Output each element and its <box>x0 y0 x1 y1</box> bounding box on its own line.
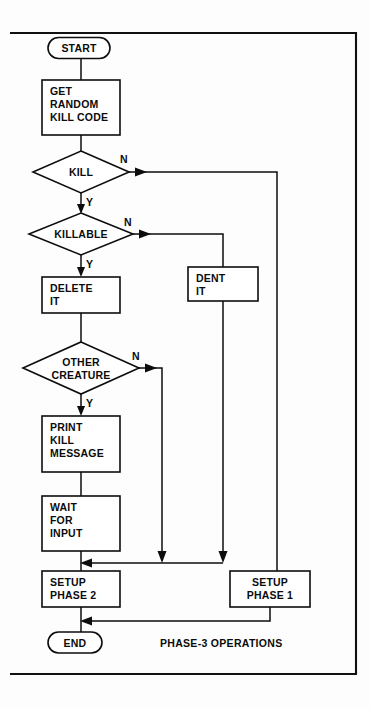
node-end-label: END <box>64 637 87 649</box>
node-kill-label: KILL <box>69 166 94 178</box>
node-delete-it[interactable]: DELETE IT <box>42 277 120 313</box>
node-get-code-line-3: KILL CODE <box>50 111 108 123</box>
edge-killable-yes-to-delete-it <box>77 255 85 277</box>
node-delete-it-line-2: IT <box>50 295 60 307</box>
node-dent-it-line-2: IT <box>196 285 206 297</box>
edge-wait-to-setup-phase-2 <box>80 551 223 571</box>
node-start[interactable]: START <box>48 38 110 59</box>
node-setup-phase-1-line-2: PHASE 1 <box>247 589 293 601</box>
caption-phase-3-operations: PHASE-3 OPERATIONS <box>160 637 282 649</box>
node-print-line-2: KILL <box>50 434 75 446</box>
node-delete-it-line-1: DELETE <box>50 282 93 294</box>
node-killable-label: KILLABLE <box>54 228 108 240</box>
node-setup-phase-2[interactable]: SETUP PHASE 2 <box>42 571 120 607</box>
node-print-line-3: MESSAGE <box>50 447 104 459</box>
branch-label-other-creature-y: Y <box>86 397 93 409</box>
node-setup-phase-2-line-1: SETUP <box>50 576 86 588</box>
node-get-code-line-2: RANDOM <box>50 98 98 110</box>
edge-other-creature-yes-to-print <box>77 394 85 416</box>
branch-label-killable-y: Y <box>86 258 93 270</box>
node-get-random-kill-code[interactable]: GET RANDOM KILL CODE <box>42 80 120 135</box>
node-other-creature-decision[interactable]: OTHER CREATURE <box>23 342 139 394</box>
node-end[interactable]: END <box>48 632 102 653</box>
node-wait-for-input[interactable]: WAIT FOR INPUT <box>42 496 120 551</box>
edge-dent-it-to-merge <box>219 301 228 563</box>
branch-label-killable-n: N <box>124 216 132 228</box>
flowchart-canvas: START GET RANDOM KILL CODE KILL KILLABLE <box>0 0 370 708</box>
node-dent-it[interactable]: DENT IT <box>188 267 258 301</box>
edge-killable-no-to-dent-it <box>133 230 223 268</box>
node-dent-it-line-1: DENT <box>196 272 226 284</box>
edge-setup-phase-1-to-end <box>80 607 270 626</box>
branch-label-other-creature-n: N <box>132 350 140 362</box>
node-other-creature-line-2: CREATURE <box>51 369 110 381</box>
node-start-label: START <box>61 42 97 54</box>
node-print-line-1: PRINT <box>50 421 83 433</box>
node-wait-line-3: INPUT <box>50 527 83 539</box>
node-layer: START GET RANDOM KILL CODE KILL KILLABLE <box>23 38 310 654</box>
diagram-caption: PHASE-3 OPERATIONS <box>160 637 282 649</box>
node-kill-decision[interactable]: KILL <box>33 151 129 193</box>
node-setup-phase-1-line-1: SETUP <box>252 576 288 588</box>
node-get-code-line-1: GET <box>50 85 73 97</box>
branch-label-kill-n: N <box>120 153 128 165</box>
node-killable-decision[interactable]: KILLABLE <box>29 213 133 255</box>
branch-label-kill-y: Y <box>86 196 93 208</box>
flowchart-page: START GET RANDOM KILL CODE KILL KILLABLE <box>0 0 370 708</box>
edge-other-creature-no-to-merge <box>139 364 167 564</box>
node-wait-line-2: FOR <box>50 514 73 526</box>
node-wait-line-1: WAIT <box>50 501 77 513</box>
node-setup-phase-1[interactable]: SETUP PHASE 1 <box>230 571 310 607</box>
node-setup-phase-2-line-2: PHASE 2 <box>50 589 96 601</box>
node-print-kill-message[interactable]: PRINT KILL MESSAGE <box>42 416 120 472</box>
edge-kill-yes-to-killable <box>77 193 85 214</box>
node-other-creature-line-1: OTHER <box>62 356 100 368</box>
